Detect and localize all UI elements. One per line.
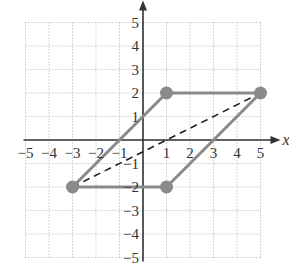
x-tick-label: 4	[233, 145, 241, 161]
x-tick-label: −5	[18, 145, 34, 161]
x-tick-label: 5	[257, 145, 265, 161]
y-tick-label: 1	[132, 109, 140, 125]
y-tick-label: −5	[123, 250, 139, 266]
y-tick-label: 4	[132, 38, 140, 54]
x-tick-label: 1	[163, 145, 171, 161]
y-tick-label: 3	[132, 62, 140, 78]
y-tick-label: −3	[123, 203, 139, 219]
data-point	[160, 181, 173, 194]
x-tick-label: −4	[41, 145, 57, 161]
data-point	[66, 181, 79, 194]
y-tick-label: −2	[123, 179, 139, 195]
x-tick-label: −2	[88, 145, 104, 161]
x-tick-label: 3	[210, 145, 218, 161]
x-axis-arrow-icon	[271, 136, 281, 144]
x-tick-label: −3	[65, 145, 81, 161]
y-axis-arrow-icon	[139, 1, 147, 11]
x-tick-label: 2	[186, 145, 194, 161]
y-tick-label: −4	[123, 226, 139, 242]
coordinate-plane: x −5−4−3−2−11234554321−1−2−3−4−5	[0, 0, 289, 270]
axes: x	[24, 1, 290, 262]
data-point	[160, 87, 173, 100]
x-axis-label: x	[282, 131, 290, 148]
y-tick-label: −1	[123, 156, 139, 172]
data-point	[254, 87, 267, 100]
y-tick-label: 5	[132, 15, 140, 31]
y-tick-label: 2	[132, 85, 140, 101]
